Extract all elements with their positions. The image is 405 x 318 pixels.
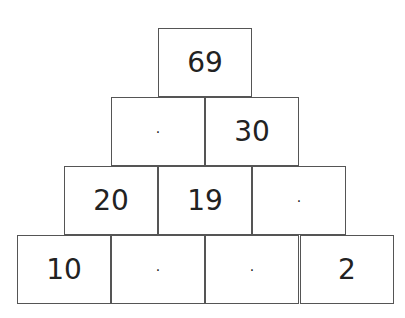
pyramid-cell-r2-c0: 20	[64, 166, 158, 235]
pyramid-cell-r1-c0[interactable]: ·	[111, 97, 205, 166]
pyramid-cell-r3-c0: 10	[17, 235, 111, 304]
pyramid-cell-r2-c1: 19	[158, 166, 252, 235]
pyramid-cell-r3-c1[interactable]: ·	[111, 235, 205, 304]
pyramid-cell-r1-c1: 30	[205, 97, 299, 166]
pyramid-cell-r0-c0: 69	[158, 28, 252, 97]
pyramid-cell-r3-c2[interactable]: ·	[205, 235, 299, 304]
pyramid-cell-r3-c3: 2	[300, 235, 394, 304]
pyramid-cell-r2-c2[interactable]: ·	[252, 166, 346, 235]
